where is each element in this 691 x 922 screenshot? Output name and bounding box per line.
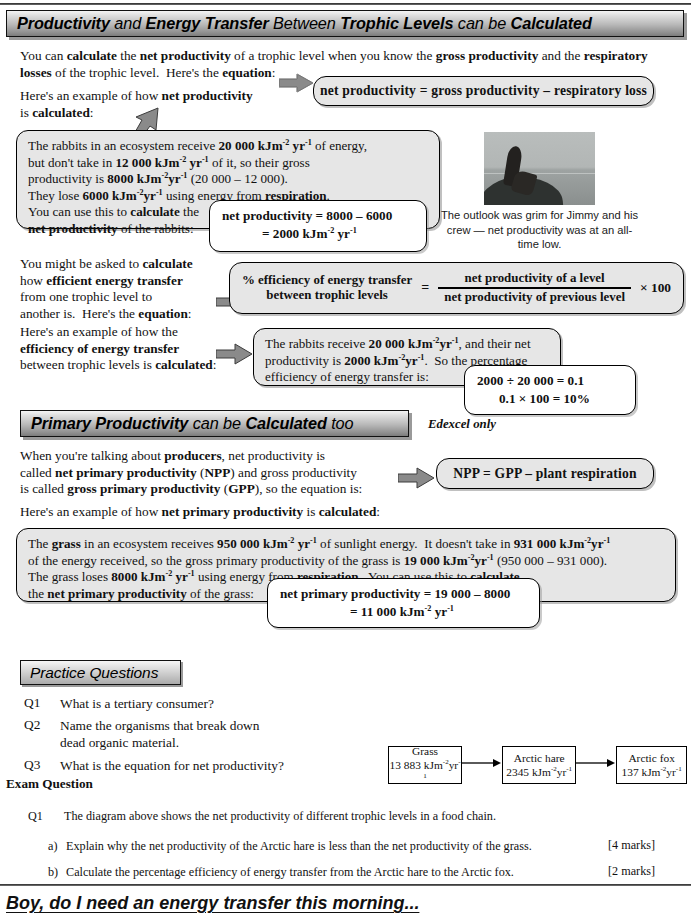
efficiency-equals-sign: = (421, 280, 429, 296)
exam-q1a-text: Explain why the net productivity of the … (66, 838, 586, 854)
efficiency-calculation-box: 2000 ÷ 20 000 = 0.1 0.1 × 100 = 10% (464, 365, 636, 415)
exam-q1-stem: The diagram above shows the net producti… (64, 808, 624, 824)
practice-q1-label: Q1 (24, 695, 40, 711)
grass-calculation-box: net primary productivity = 19 000 – 8000… (267, 578, 540, 628)
section-heading-primary-productivity-label: Primary Productivity can be Calculated t… (31, 414, 354, 433)
grass-calculation-text: net primary productivity = 19 000 – 8000… (268, 579, 539, 627)
equation-npp-text: NPP = GPP – plant respiration (453, 466, 637, 482)
pointer-arrow-icon-4 (398, 467, 440, 489)
efficiency-fraction: net productivity of a level net producti… (438, 271, 631, 305)
top-divider (0, 3, 691, 5)
exam-q1b-text: Calculate the percentage efficiency of e… (66, 864, 586, 880)
food-chain-box-3-name: Arctic fox (628, 751, 675, 765)
equation-net-productivity-text: net productivity = gross productivity – … (320, 83, 647, 99)
practice-q3-label: Q3 (24, 757, 40, 773)
equation-net-productivity-box: net productivity = gross productivity – … (313, 76, 654, 106)
food-chain-arrow-1 (462, 756, 502, 774)
efficiency-numerator: net productivity of a level (459, 271, 611, 287)
efficiency-calculation-text: 2000 ÷ 20 000 = 0.1 0.1 × 100 = 10% (465, 366, 635, 414)
practice-q2-label: Q2 (24, 717, 40, 733)
practice-q1-text: What is a tertiary consumer? (60, 695, 360, 712)
npp-intro-paragraph: When you're talking about producers, net… (20, 448, 390, 498)
food-chain-box-1-name: Grass (412, 744, 438, 758)
footer-divider (0, 884, 691, 886)
edexcel-only-note: Edexcel only (428, 417, 496, 432)
rabbit-calculation-box: net productivity = 8000 – 6000 = 2000 kJ… (209, 200, 427, 252)
exam-q1-label: Q1 (28, 808, 43, 824)
footer-joke-text: Boy, do I need an energy transfer this m… (6, 893, 419, 914)
food-chain-box-3-value: 137 kJm-2yr-1 (622, 765, 682, 779)
efficiency-calc-line2: 0.1 × 100 = 10% (477, 390, 623, 408)
section-heading-primary-productivity: Primary Productivity can be Calculated t… (20, 410, 409, 437)
pointer-arrow-icon-3 (216, 343, 258, 365)
rabbit-calculation-text: net productivity = 8000 – 6000 = 2000 kJ… (210, 201, 426, 249)
section-heading-productivity: Productivity and Energy Transfer Between… (6, 10, 684, 37)
efficiency-calc-line1: 2000 ÷ 20 000 = 0.1 (477, 372, 623, 390)
food-chain-box-3: Arctic fox 137 kJm-2yr-1 (616, 746, 687, 784)
exam-q1a-label: a) (48, 838, 57, 854)
photo-caption: The outlook was grim for Jimmy and his c… (437, 208, 642, 252)
food-chain-box-2-value: 2345 kJm-2yr-1 (506, 765, 572, 779)
section-heading-productivity-label: Productivity and Energy Transfer Between… (17, 14, 592, 33)
grass-calc-line2: = 11 000 kJm-2 yr-1 (280, 603, 527, 621)
food-chain-diagram: Grass 13 883 kJm-2yr-1 Arctic hare 2345 … (388, 745, 687, 785)
food-chain-box-2: Arctic hare 2345 kJm-2yr-1 (502, 746, 576, 784)
efficiency-multiplier: × 100 (640, 280, 671, 296)
exam-q1a-marks: [4 marks] (608, 838, 655, 853)
food-chain-box-2-name: Arctic hare (514, 751, 565, 765)
npp-example-intro: Here's an example of how net primary pro… (20, 504, 440, 521)
rabbit-calc-line2: = 2000 kJm-2 yr-1 (222, 225, 414, 243)
exam-q1b-label: b) (48, 864, 58, 880)
efficiency-example-intro: Here's an example of how the efficiency … (20, 324, 235, 374)
equation-npp-box: NPP = GPP – plant respiration (436, 458, 654, 489)
practice-q3-text: What is the equation for net productivit… (60, 757, 390, 774)
efficiency-intro-paragraph: You might be asked to calculate how effi… (20, 256, 235, 322)
practice-questions-heading: Practice Questions (20, 660, 181, 685)
efficiency-denominator: net productivity of previous level (438, 289, 631, 305)
photo-jimmy-cliff (484, 132, 595, 205)
grass-calc-line1: net primary productivity = 19 000 – 8000 (280, 585, 527, 603)
equation-efficiency-box: % efficiency of energy transfer between … (229, 262, 684, 314)
exam-question-heading: Exam Question (6, 776, 93, 792)
rabbit-calc-line1: net productivity = 8000 – 6000 (222, 207, 414, 225)
practice-questions-heading-label: Practice Questions (30, 664, 158, 682)
food-chain-box-1-value: 13 883 kJm-2yr-1 (389, 758, 461, 786)
food-chain-arrow-2 (576, 756, 616, 774)
food-chain-box-1: Grass 13 883 kJm-2yr-1 (388, 746, 462, 784)
practice-q2-text: Name the organisms that break downdead o… (60, 717, 310, 751)
efficiency-equation-left: % efficiency of energy transfer between … (242, 273, 412, 304)
exam-q1b-marks: [2 marks] (608, 864, 655, 879)
